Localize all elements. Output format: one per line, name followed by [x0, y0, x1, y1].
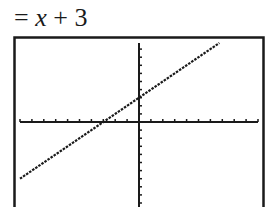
graph-screen	[0, 0, 270, 207]
